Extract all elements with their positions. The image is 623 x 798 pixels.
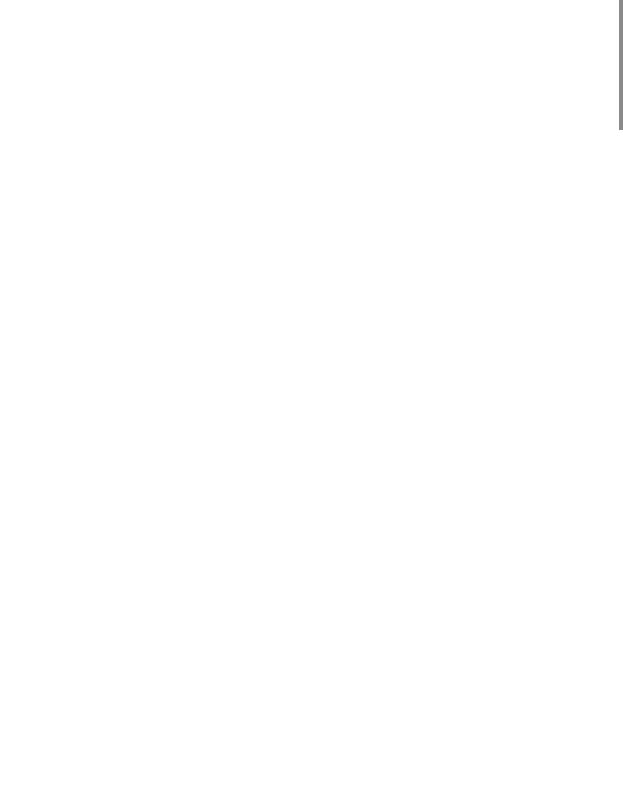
instruction-steps: [330, 446, 620, 466]
beading-illustrations: [0, 0, 623, 798]
page-edge-tab: [619, 0, 623, 130]
